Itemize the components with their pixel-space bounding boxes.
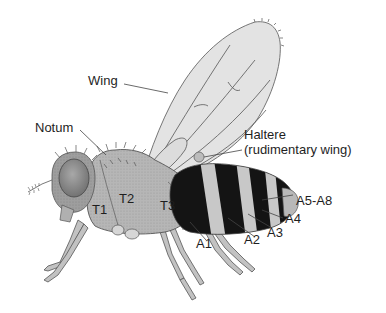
- label-a5-a8: A5-A8: [296, 194, 332, 208]
- label-notum: Notum: [35, 121, 73, 135]
- fly-diagram: Wing Notum Haltere (rudimentary wing) T1…: [0, 0, 386, 313]
- compound-eye: [59, 159, 89, 197]
- label-wing: Wing: [88, 74, 118, 88]
- label-a4: A4: [285, 212, 301, 226]
- label-a3: A3: [267, 226, 283, 240]
- label-a1: A1: [196, 237, 212, 251]
- haltere-knob: [194, 152, 204, 162]
- label-haltere: Haltere: [244, 128, 286, 142]
- abdomen: [165, 155, 305, 245]
- head: [28, 145, 97, 222]
- label-haltere-note: (rudimentary wing): [244, 143, 352, 157]
- label-t3: T3: [160, 199, 175, 213]
- label-a2: A2: [244, 233, 260, 247]
- label-t1: T1: [92, 203, 107, 217]
- label-t2: T2: [119, 192, 134, 206]
